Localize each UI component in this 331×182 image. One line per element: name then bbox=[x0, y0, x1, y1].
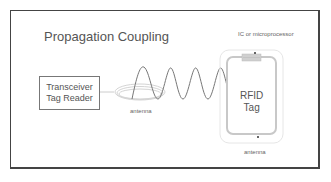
tag-antenna-pointer-dot bbox=[257, 136, 259, 138]
rfid-tag-label-line1: RFID bbox=[240, 90, 263, 102]
tag-antenna-label: antenna bbox=[244, 149, 266, 155]
rfid-tag-label-line2: Tag bbox=[240, 102, 263, 114]
rfid-tag-label: RFID Tag bbox=[240, 90, 263, 114]
reader-antenna-label: antenna bbox=[130, 108, 152, 114]
reader-antenna-coil bbox=[115, 84, 165, 100]
diagram-graphics bbox=[0, 0, 331, 182]
ic-pointer-dot bbox=[254, 52, 256, 54]
ic-label: IC or microprocessor bbox=[238, 31, 294, 37]
